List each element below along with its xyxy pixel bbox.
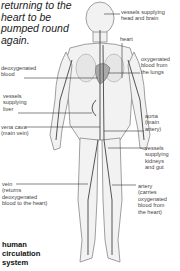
label-line: the lungs [141, 69, 170, 75]
label-liver-vessels: vessels supplying liver [3, 93, 27, 112]
label-kidney-vessels: vessels supplying kidneys and gut [145, 145, 169, 171]
label-line: supplying [145, 151, 169, 157]
label-line: the heart) [138, 209, 167, 215]
label-line: supplying [3, 99, 27, 105]
label-line: blood from [141, 62, 170, 68]
label-line: artery) [145, 126, 161, 132]
label-line: and gut [145, 164, 169, 170]
label-artery: artery (carries oxygenated blood from th… [138, 183, 167, 215]
label-deoxygenated: deoxygenated blood [1, 65, 36, 78]
label-vein: vein (returns deoxygenated blood to the … [2, 181, 47, 207]
label-line: blood from [138, 202, 167, 208]
label-vena-cava: vena cava (main vein) [1, 124, 29, 137]
title-line: human [2, 240, 40, 249]
title-line: circulation [2, 249, 40, 258]
label-line: blood [1, 71, 36, 77]
label-line: liver [3, 106, 27, 112]
diagram-title: human circulation system [2, 240, 40, 267]
label-line: head and brain [121, 15, 165, 21]
label-line: blood to the heart) [2, 200, 47, 206]
label-heart: heart [120, 36, 133, 42]
label-aorta: aorta (main artery) [145, 113, 161, 132]
label-line: (main vein) [1, 130, 29, 136]
label-head-vessels: vessels supplying head and brain [121, 9, 165, 22]
label-oxygenated-lungs: oxygenated blood from the lungs [141, 56, 170, 75]
intro-text: returning to the heart to be pumped roun… [1, 0, 91, 46]
title-line: system [2, 258, 40, 267]
label-line: (main [145, 119, 161, 125]
